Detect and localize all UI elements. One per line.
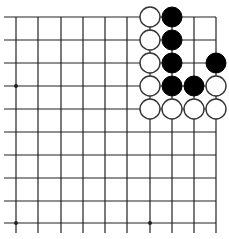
black-stone[interactable] [162,7,182,27]
black-stone[interactable] [206,53,226,73]
white-stone[interactable] [140,7,160,27]
white-stone[interactable] [184,99,204,119]
go-board[interactable] [0,0,229,239]
white-stone[interactable] [140,53,160,73]
black-stone[interactable] [162,53,182,73]
black-stone[interactable] [184,76,204,96]
white-stone[interactable] [162,99,182,119]
star-point [148,221,152,225]
white-stone[interactable] [140,30,160,50]
board-grid [4,17,216,233]
black-stone[interactable] [162,30,182,50]
star-point [14,84,18,88]
star-point [14,221,18,225]
black-stone[interactable] [162,76,182,96]
white-stone[interactable] [206,99,226,119]
white-stone[interactable] [206,76,226,96]
white-stone[interactable] [140,99,160,119]
white-stone[interactable] [140,76,160,96]
